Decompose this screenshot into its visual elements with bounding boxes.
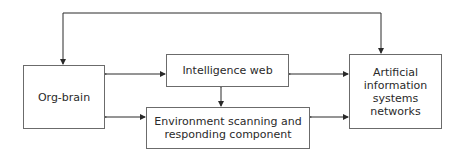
intelligence-web-box: Intelligence web bbox=[166, 54, 289, 87]
environment-scanning-box: Environment scanning and responding comp… bbox=[146, 107, 310, 149]
org-brain-label: Org-brain bbox=[38, 91, 90, 104]
ais-networks-label: Artificial information systems networks bbox=[364, 66, 428, 118]
ais-networks-box: Artificial information systems networks bbox=[349, 54, 442, 129]
org-brain-box: Org-brain bbox=[23, 65, 105, 129]
environment-scanning-label: Environment scanning and responding comp… bbox=[154, 115, 301, 141]
intelligence-web-label: Intelligence web bbox=[182, 64, 272, 77]
